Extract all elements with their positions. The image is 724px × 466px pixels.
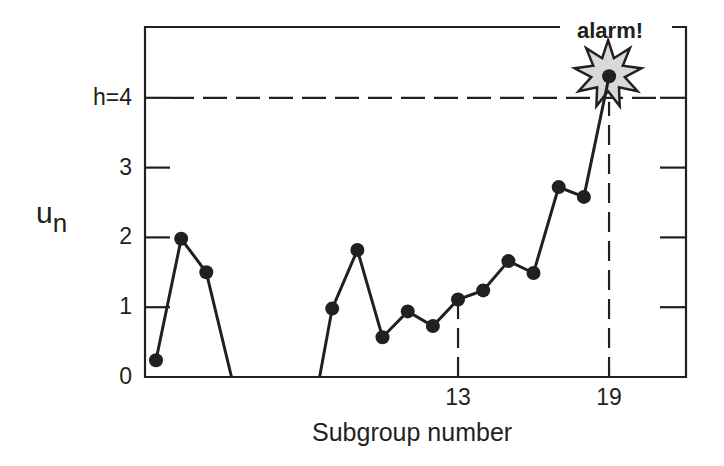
data-line-segment: [156, 239, 232, 377]
data-point: [199, 265, 213, 279]
data-point: [527, 266, 541, 280]
y-tick-label: 0: [72, 365, 132, 388]
data-point: [376, 330, 390, 344]
data-point: [602, 69, 616, 83]
alarm-annotation: alarm!: [577, 20, 643, 42]
data-point: [577, 190, 591, 204]
y-axis-label-sub: n: [53, 208, 67, 238]
data-point: [426, 319, 440, 333]
y-axis-label-main: u: [36, 196, 53, 229]
x-tick-label: 19: [589, 386, 629, 409]
data-point: [451, 293, 465, 307]
data-point: [325, 302, 339, 316]
y-tick-label: h=4: [72, 86, 132, 109]
data-point: [149, 353, 163, 367]
y-axis-label: un: [36, 198, 67, 228]
vertical-markers: [458, 102, 609, 377]
data-point: [501, 254, 515, 268]
data-point: [552, 180, 566, 194]
y-tick-label: 3: [72, 156, 132, 179]
x-axis-label: Subgroup number: [312, 420, 512, 445]
data-point: [174, 232, 188, 246]
y-tick-label: 1: [72, 295, 132, 318]
x-tick-label: 13: [438, 386, 478, 409]
data-line-segment: [320, 76, 609, 377]
data-point: [350, 243, 364, 257]
y-tick-label: 2: [72, 225, 132, 248]
data-point: [476, 283, 490, 297]
data-point: [401, 304, 415, 318]
